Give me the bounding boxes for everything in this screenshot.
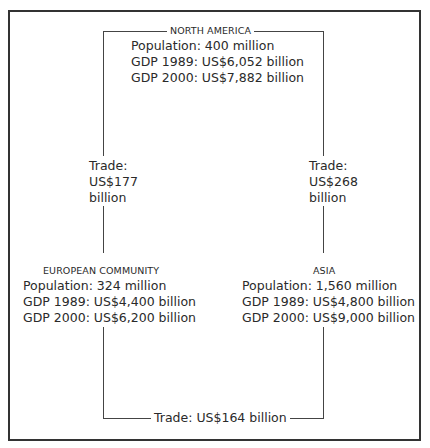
trade-na-asia-value: US$268	[309, 174, 358, 190]
european-community-population: Population: 324 million	[23, 278, 196, 294]
connector-left-bottom	[103, 327, 104, 419]
connector-right-upper	[323, 31, 324, 156]
north-america-gdp-2000: GDP 2000: US$7,882 billion	[131, 70, 304, 86]
european-community-gdp-1989: GDP 1989: US$4,400 billion	[23, 294, 196, 310]
trade-na-asia-unit: billion	[309, 190, 358, 206]
connector-left-lower	[103, 206, 104, 253]
connector-left-upper	[103, 31, 104, 156]
trade-na-asia: Trade: US$268 billion	[309, 158, 358, 206]
trade-na-ec-unit: billion	[89, 190, 138, 206]
european-community-title: EUROPEAN COMMUNITY	[43, 263, 159, 279]
asia-gdp-2000: GDP 2000: US$9,000 billion	[242, 310, 415, 326]
connector-right-bottom	[323, 327, 324, 419]
north-america-population: Population: 400 million	[131, 38, 304, 54]
trade-ec-asia: Trade: US$164 billion	[151, 410, 290, 426]
asia-title: ASIA	[313, 263, 335, 279]
asia-gdp-1989: GDP 1989: US$4,800 billion	[242, 294, 415, 310]
north-america-gdp-1989: GDP 1989: US$6,052 billion	[131, 54, 304, 70]
european-community-gdp-2000: GDP 2000: US$6,200 billion	[23, 310, 196, 326]
european-community-stats: Population: 324 million GDP 1989: US$4,4…	[23, 278, 196, 326]
trade-na-ec-label: Trade:	[89, 158, 138, 174]
asia-population: Population: 1,560 million	[242, 278, 415, 294]
trade-na-asia-label: Trade:	[309, 158, 358, 174]
connector-right-lower	[323, 206, 324, 253]
trade-na-ec: Trade: US$177 billion	[89, 158, 138, 206]
trade-na-ec-value: US$177	[89, 174, 138, 190]
north-america-title: NORTH AMERICA	[167, 24, 254, 38]
asia-stats: Population: 1,560 million GDP 1989: US$4…	[242, 278, 415, 326]
north-america-stats: Population: 400 million GDP 1989: US$6,0…	[131, 38, 304, 86]
